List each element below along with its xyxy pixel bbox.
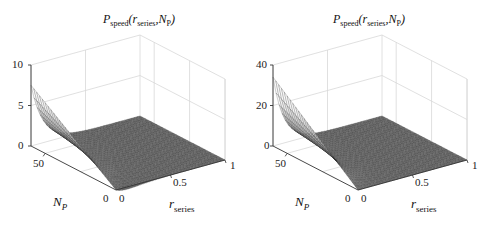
right-ztick-mid: 20	[256, 100, 267, 111]
right-chart-panel: Pspeed(rseries,NP) 40 20 0 50 0 0 0.5 1 …	[246, 0, 493, 225]
right-chart-title: Pspeed(rseries,NP)	[333, 12, 405, 28]
left-ztick-mid: 5	[18, 100, 24, 111]
right-xtick-0: 0	[361, 193, 367, 204]
right-xlabel-rseries: rseries	[411, 196, 437, 214]
right-ytick-50: 50	[275, 158, 286, 169]
left-chart-panel: Pspeed(rseries,NP) 10 5 0 50 0 0 0.5 1 N…	[0, 0, 247, 225]
right-ytick-0: 0	[345, 193, 351, 204]
right-xtick-05: 0.5	[415, 177, 429, 188]
left-xtick-1: 1	[230, 160, 236, 171]
right-ylabel-np: NP	[295, 194, 309, 212]
right-ztick-top: 40	[256, 59, 267, 70]
left-xtick-05: 0.5	[173, 177, 187, 188]
right-xtick-1: 1	[472, 160, 478, 171]
left-ytick-0: 0	[103, 193, 109, 204]
left-ylabel-np: NP	[53, 194, 67, 212]
left-chart-title: Pspeed(rseries,NP)	[103, 12, 175, 28]
left-xtick-0: 0	[119, 193, 125, 204]
left-ztick-bottom: 0	[18, 140, 24, 151]
right-surface-plot	[246, 0, 493, 225]
left-ytick-50: 50	[33, 158, 44, 169]
right-ztick-bottom: 0	[264, 140, 270, 151]
left-xlabel-rseries: rseries	[169, 196, 195, 214]
left-ztick-top: 10	[12, 59, 23, 70]
